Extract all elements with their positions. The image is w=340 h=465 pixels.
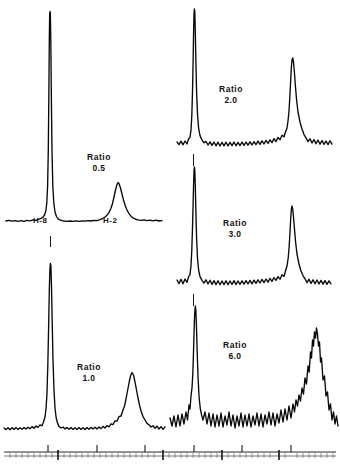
spectrum-panel-ratio-2-0: Ratio 2.0	[172, 0, 340, 158]
spectrum-trace-ratio-1-0	[0, 258, 172, 438]
ratio-label-2-0: Ratio 2.0	[210, 84, 252, 106]
peak-label-h8: H-8	[33, 216, 47, 225]
ratio-label-1-0: Ratio 1.0	[68, 362, 110, 384]
spectrum-trace-ratio-3-0	[172, 160, 340, 300]
ratio-value: 6.0	[214, 351, 256, 362]
scale-major-ticks	[48, 445, 291, 452]
spectrum-panel-ratio-3-0: Ratio 3.0	[172, 160, 340, 300]
spectrum-scale-bar	[0, 441, 340, 461]
ratio-label-3-0: Ratio 3.0	[214, 218, 256, 240]
spectrum-trace-ratio-0-5	[0, 0, 170, 232]
spectrum-panel-ratio-1-0: Ratio 1.0	[0, 258, 172, 438]
ratio-word: Ratio	[77, 362, 101, 372]
ratio-label-0-5: Ratio 0.5	[78, 152, 120, 174]
spectrum-trace-ratio-2-0	[172, 0, 340, 158]
spectrum-trace-ratio-6-0	[168, 300, 340, 440]
spectrum-panel-ratio-6-0: Ratio 6.0	[168, 300, 340, 440]
ratio-word: Ratio	[223, 218, 247, 228]
panel-tick-ratio-0-5	[50, 236, 51, 247]
peak-label-h2: H-2	[103, 216, 117, 225]
ratio-word: Ratio	[223, 340, 247, 350]
nmr-spectra-figure: Ratio 0.5 H-8 H-2 Ratio 1.0 Ratio 2.0	[0, 0, 340, 465]
ratio-value: 3.0	[214, 229, 256, 240]
ratio-label-6-0: Ratio 6.0	[214, 340, 256, 362]
spectrum-panel-ratio-0-5: Ratio 0.5 H-8 H-2	[0, 0, 170, 232]
ratio-word: Ratio	[87, 152, 111, 162]
ratio-value: 1.0	[68, 373, 110, 384]
ratio-word: Ratio	[219, 84, 243, 94]
ratio-value: 0.5	[78, 163, 120, 174]
ratio-value: 2.0	[210, 95, 252, 106]
